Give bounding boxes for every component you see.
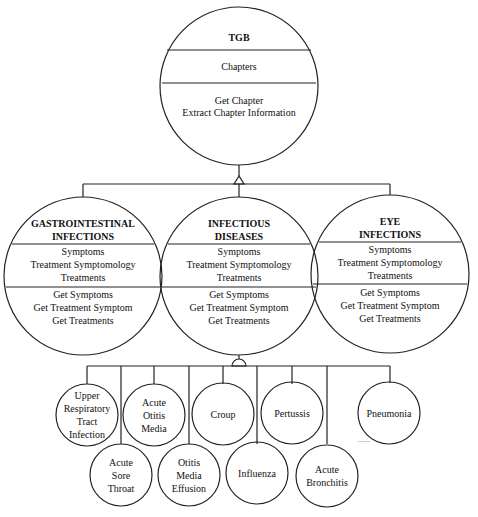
- disease-label: Influenza: [227, 467, 287, 480]
- disease-node-pertussis: Pertussis: [262, 407, 322, 420]
- disease-label: Acute: [91, 456, 151, 469]
- chapter-attribute: Treatments: [310, 270, 470, 282]
- root-circle: [160, 7, 318, 165]
- disease-label: Pneumonia: [354, 407, 424, 420]
- chapter-attribute: Treatment Symptomology: [310, 257, 470, 269]
- chapter-attribute: Symptoms: [3, 246, 163, 258]
- root-attribute: Chapters: [179, 61, 299, 73]
- disease-label: Otitis: [124, 409, 184, 422]
- chapter-operation: Get Treatments: [310, 313, 470, 325]
- disease-label: Effusion: [159, 482, 219, 495]
- chapter-operation: Get Treatments: [159, 315, 319, 327]
- continuation-dots: ......: [352, 434, 376, 446]
- chapter-title: INFECTIONS: [310, 229, 470, 241]
- chapter-attribute: Symptoms: [310, 244, 470, 256]
- disease-node-acute-otitis-media: Acute Otitis Media: [124, 396, 184, 435]
- disease-label: Throat: [91, 482, 151, 495]
- chapter-operation: Get Treatment Symptom: [310, 300, 470, 312]
- chapter-title: DISEASES: [159, 231, 319, 243]
- disease-label: Pertussis: [262, 407, 322, 420]
- disease-label: Media: [124, 422, 184, 435]
- disease-label: Acute: [297, 463, 357, 476]
- chapter-attribute: Treatments: [159, 272, 319, 284]
- chapter-operation: Get Treatment Symptom: [3, 302, 163, 314]
- chapter-operation: Get Symptoms: [159, 289, 319, 301]
- disease-label: Media: [159, 469, 219, 482]
- chapter-attribute: Treatments: [3, 272, 163, 284]
- disease-label: Bronchitis: [297, 476, 357, 489]
- disease-node-pneumonia: Pneumonia: [354, 407, 424, 420]
- disease-label: Infection: [57, 428, 117, 441]
- chapter-attribute: Treatment Symptomology: [159, 259, 319, 271]
- chapter-title: INFECTIONS: [3, 231, 163, 243]
- root-operation: Get Chapter: [169, 95, 309, 107]
- chapter-title: EYE: [310, 216, 470, 228]
- disease-node-urti: Upper Respiratory Tract Infection: [57, 389, 117, 441]
- disease-label: Croup: [193, 408, 253, 421]
- chapter-operation: Get Symptoms: [3, 289, 163, 301]
- disease-node-acute-sore-throat: Acute Sore Throat: [91, 456, 151, 495]
- disease-node-influenza: Influenza: [227, 467, 287, 480]
- disease-label: Otitis: [159, 456, 219, 469]
- disease-label: Tract: [57, 415, 117, 428]
- chapter-operation: Get Treatments: [3, 315, 163, 327]
- disease-node-otitis-media-effusion: Otitis Media Effusion: [159, 456, 219, 495]
- disease-label: Sore: [91, 469, 151, 482]
- chapter-attribute: Treatment Symptomology: [3, 259, 163, 271]
- chapter-title: GASTROINTESTINAL: [3, 218, 163, 230]
- disease-label: Respiratory: [57, 402, 117, 415]
- disease-label: Upper: [57, 389, 117, 402]
- chapter-attribute: Symptoms: [159, 246, 319, 258]
- root-operation: Extract Chapter Information: [159, 107, 319, 119]
- disease-node-acute-bronchitis: Acute Bronchitis: [297, 463, 357, 489]
- chapter-operation: Get Symptoms: [310, 287, 470, 299]
- chapter-operation: Get Treatment Symptom: [159, 302, 319, 314]
- disease-label: Acute: [124, 396, 184, 409]
- disease-node-croup: Croup: [193, 408, 253, 421]
- root-title: TGB: [199, 32, 279, 44]
- chapter-title: INFECTIOUS: [159, 218, 319, 230]
